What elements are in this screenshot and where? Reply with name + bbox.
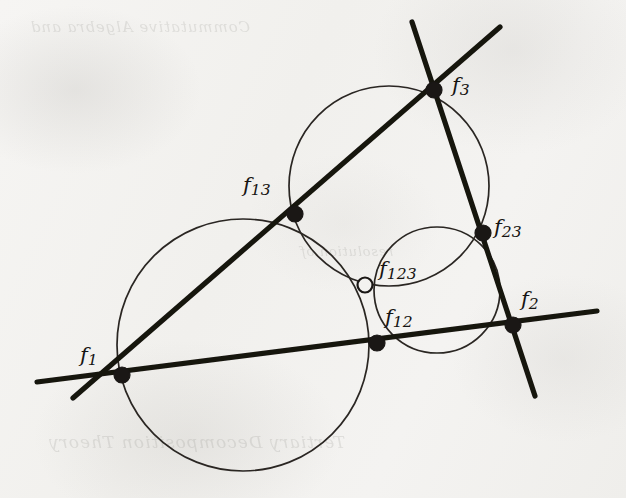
label-f1-subscript: 1 <box>88 351 98 369</box>
label-f123: f123 <box>379 257 417 283</box>
label-f2-base: f <box>521 287 529 311</box>
point-f1[interactable] <box>114 367 130 383</box>
point-f12[interactable] <box>369 335 385 351</box>
label-f123-subscript: 123 <box>387 265 417 283</box>
label-f123-base: f <box>379 257 387 281</box>
circle-2 <box>374 227 500 353</box>
label-f2: f2 <box>521 287 539 313</box>
label-f1: f1 <box>80 343 98 369</box>
label-f12-base: f <box>385 305 393 329</box>
geometry-diagram-svg <box>0 0 626 498</box>
label-f12-subscript: 12 <box>393 313 413 331</box>
label-f2-subscript: 2 <box>529 295 539 313</box>
point-f23[interactable] <box>475 225 491 241</box>
label-f23: f23 <box>494 215 522 241</box>
label-f3-base: f <box>452 73 460 97</box>
label-f13-base: f <box>243 173 251 197</box>
secant-lines-group <box>37 22 597 398</box>
label-f23-base: f <box>494 215 502 239</box>
label-f1-base: f <box>80 343 88 367</box>
label-f12: f12 <box>385 305 413 331</box>
label-f23-subscript: 23 <box>502 223 522 241</box>
point-f3[interactable] <box>426 82 442 98</box>
label-f3-subscript: 3 <box>460 81 470 99</box>
circles-group <box>117 86 500 471</box>
point-f123[interactable] <box>358 278 373 293</box>
label-f13-subscript: 13 <box>251 181 271 199</box>
figure-canvas: Commutative Algebra and Tertiary Decompo… <box>0 0 626 498</box>
point-f13[interactable] <box>287 206 303 222</box>
label-f3: f3 <box>452 73 470 99</box>
intersection-points-group <box>114 82 521 383</box>
point-f2[interactable] <box>505 317 521 333</box>
label-f13: f13 <box>243 173 271 199</box>
line-f3-f23-f2 <box>412 22 535 396</box>
